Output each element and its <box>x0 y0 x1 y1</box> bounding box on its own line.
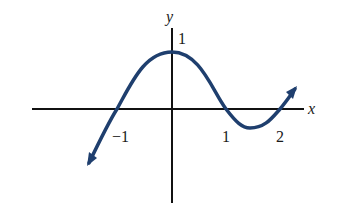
x-tick-label-neg1: −1 <box>112 128 129 145</box>
y-tick-label-1: 1 <box>178 30 186 47</box>
function-curve <box>89 52 295 163</box>
x-tick-label-2: 2 <box>276 128 284 145</box>
x-axis-label: x <box>307 100 315 117</box>
function-graph: y x 1 −1 1 2 <box>0 0 338 210</box>
x-tick-label-1: 1 <box>222 128 230 145</box>
y-axis-label: y <box>164 8 174 26</box>
